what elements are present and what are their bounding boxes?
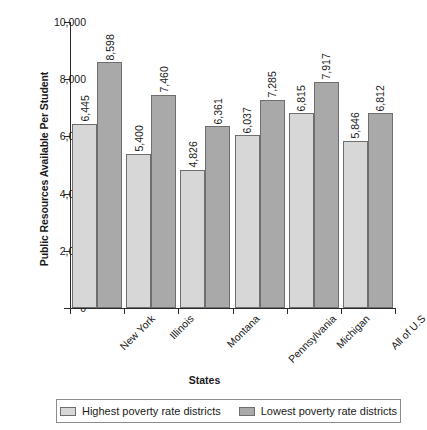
bar-value-label: 4,826 — [188, 142, 199, 168]
bar: 7,917 — [314, 82, 339, 308]
x-axis-category-label: Illinois — [168, 313, 196, 341]
bar-group: 5,4007,460 — [126, 22, 176, 308]
x-axis-category-label: Montana — [225, 313, 261, 349]
bar: 6,812 — [368, 113, 393, 308]
bar-group: 6,4458,598 — [72, 22, 122, 308]
bar-value-label: 8,598 — [104, 34, 115, 60]
bar-value-label: 7,460 — [159, 66, 170, 92]
x-axis-category-label: Pennsylvania — [286, 313, 338, 365]
legend-label: Highest poverty rate districts — [82, 405, 221, 417]
bar-value-label: 6,361 — [213, 98, 224, 124]
bar: 6,361 — [205, 126, 230, 308]
bar: 5,400 — [126, 154, 151, 308]
x-axis-tick — [395, 308, 396, 314]
plot-area: 02,0004,0006,0008,00010,000 6,4458,5985,… — [70, 22, 395, 308]
bar-value-label: 6,445 — [79, 95, 90, 121]
bar: 5,846 — [343, 141, 368, 308]
bar: 6,445 — [72, 124, 97, 308]
bar-value-label: 6,815 — [296, 85, 307, 111]
legend-swatch-icon — [239, 407, 255, 416]
bar: 7,285 — [260, 100, 285, 308]
bar: 4,826 — [180, 170, 205, 308]
x-axis-category-label: All of U.S — [389, 313, 427, 351]
x-axis-tick — [287, 308, 288, 314]
bar-value-label: 5,400 — [134, 125, 145, 151]
bar: 8,598 — [97, 62, 122, 308]
bar-value-label: 7,285 — [267, 71, 278, 97]
x-axis-tick — [341, 308, 342, 314]
x-axis-category-label: Michigan — [334, 313, 371, 350]
chart-legend: Highest poverty rate districts Lowest po… — [56, 399, 401, 423]
bar-value-label: 7,917 — [321, 53, 332, 79]
legend-swatch-icon — [60, 407, 76, 416]
bar: 7,460 — [151, 95, 176, 308]
legend-item-lowest-poverty: Lowest poverty rate districts — [239, 405, 397, 417]
bar-group: 5,8466,812 — [343, 22, 393, 308]
bar-value-label: 6,812 — [375, 85, 386, 111]
bar-value-label: 6,037 — [242, 107, 253, 133]
x-axis-tick — [124, 308, 125, 314]
y-axis-line — [70, 22, 71, 308]
y-axis-title: Public Resources Available Per Student — [38, 29, 50, 309]
x-axis-tick — [178, 308, 179, 314]
bar: 6,815 — [289, 113, 314, 308]
bar-group: 6,8157,917 — [289, 22, 339, 308]
legend-label: Lowest poverty rate districts — [261, 405, 397, 417]
x-axis-category-label: New York — [118, 313, 157, 352]
x-axis-tick — [70, 308, 71, 314]
bar-value-label: 5,846 — [350, 113, 361, 139]
bar-group: 4,8266,361 — [180, 22, 230, 308]
bar: 6,037 — [235, 135, 260, 308]
x-axis-title: States — [0, 374, 409, 386]
bar-group: 6,0377,285 — [235, 22, 285, 308]
x-axis-tick — [233, 308, 234, 314]
legend-item-highest-poverty: Highest poverty rate districts — [60, 405, 221, 417]
